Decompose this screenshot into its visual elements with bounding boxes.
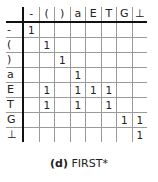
row-header: T (6, 98, 23, 113)
row-header: ) (6, 53, 23, 68)
matrix-cell: 1 (86, 83, 102, 98)
matrix-cell: 1 (70, 68, 86, 83)
matrix-cell (132, 38, 147, 53)
matrix-cell (132, 53, 147, 68)
row-header: E (6, 83, 23, 98)
matrix-cell (70, 113, 86, 128)
matrix-cell (39, 22, 55, 38)
matrix-cell: 1 (39, 83, 55, 98)
row-header: a (6, 68, 23, 83)
matrix-cell: 1 (55, 53, 71, 68)
matrix-cell: 1 (70, 98, 86, 113)
matrix-cell (117, 38, 133, 53)
matrix-cell: 1 (70, 83, 86, 98)
matrix-cell: 1 (132, 128, 147, 143)
first-star-matrix: - ( ) a E T G ⊥ -1(1)1a1E1111T111G11⊥1 (6, 7, 147, 142)
matrix-cell: 1 (23, 22, 39, 38)
matrix-cell (117, 98, 133, 113)
matrix-cell (55, 38, 71, 53)
matrix-cell (86, 98, 102, 113)
matrix-cell (23, 83, 39, 98)
matrix-cell (86, 53, 102, 68)
matrix-cell (23, 38, 39, 53)
matrix-cell (70, 128, 86, 143)
column-header: ) (55, 7, 71, 22)
matrix-cell: 1 (39, 98, 55, 113)
table-row: G11 (6, 113, 147, 128)
table-row: (1 (6, 38, 147, 53)
matrix-cell (23, 98, 39, 113)
matrix-cell (39, 128, 55, 143)
row-header: ⊥ (6, 128, 23, 143)
matrix-cell (55, 98, 71, 113)
table-row: a1 (6, 68, 147, 83)
caption-text: FIRST* (72, 157, 108, 170)
column-header: G (117, 7, 133, 22)
matrix-cell (117, 83, 133, 98)
matrix-cell (55, 68, 71, 83)
header-row: - ( ) a E T G ⊥ (6, 7, 147, 22)
matrix-cell (117, 53, 133, 68)
matrix-cell (70, 53, 86, 68)
column-header: - (23, 7, 39, 22)
table-row: )1 (6, 53, 147, 68)
matrix-cell (39, 53, 55, 68)
matrix-cell (70, 22, 86, 38)
row-header: G (6, 113, 23, 128)
matrix-cell (132, 68, 147, 83)
matrix-cell (132, 98, 147, 113)
matrix-cell (86, 68, 102, 83)
matrix-cell (101, 68, 117, 83)
matrix-cell (23, 128, 39, 143)
matrix-cell: 1 (101, 83, 117, 98)
figure-caption: (d) FIRST* (0, 157, 158, 170)
matrix-cell (23, 68, 39, 83)
matrix-cell (101, 38, 117, 53)
column-header: E (86, 7, 102, 22)
matrix-cell: 1 (39, 38, 55, 53)
row-header: ( (6, 38, 23, 53)
matrix-cell (86, 113, 102, 128)
corner-cell (6, 7, 23, 22)
matrix-cell (101, 53, 117, 68)
table-row: -1 (6, 22, 147, 38)
table-row: T111 (6, 98, 147, 113)
matrix-body: -1(1)1a1E1111T111G11⊥1 (6, 22, 147, 142)
matrix-cell: 1 (132, 113, 147, 128)
matrix-cell (55, 113, 71, 128)
matrix-cell: 1 (117, 113, 133, 128)
matrix-cell (101, 113, 117, 128)
matrix-cell: 1 (101, 98, 117, 113)
matrix-cell (117, 68, 133, 83)
matrix-cell (55, 22, 71, 38)
column-header: T (101, 7, 117, 22)
matrix-cell (55, 128, 71, 143)
matrix-cell (117, 128, 133, 143)
matrix-cell (55, 83, 71, 98)
table-row: ⊥1 (6, 128, 147, 143)
matrix-cell (132, 83, 147, 98)
table-row: E1111 (6, 83, 147, 98)
matrix-cell (117, 22, 133, 38)
column-header: a (70, 7, 86, 22)
matrix-cell (70, 38, 86, 53)
row-header: - (6, 22, 23, 38)
matrix-cell (39, 68, 55, 83)
matrix-cell (23, 53, 39, 68)
matrix-cell (86, 128, 102, 143)
caption-label: (d) (50, 157, 68, 170)
matrix-cell (86, 38, 102, 53)
column-header: ⊥ (132, 7, 147, 22)
matrix-cell (101, 22, 117, 38)
matrix-cell (86, 22, 102, 38)
matrix-cell (132, 22, 147, 38)
column-header: ( (39, 7, 55, 22)
matrix-cell (23, 113, 39, 128)
matrix-cell (101, 128, 117, 143)
matrix-cell (39, 113, 55, 128)
